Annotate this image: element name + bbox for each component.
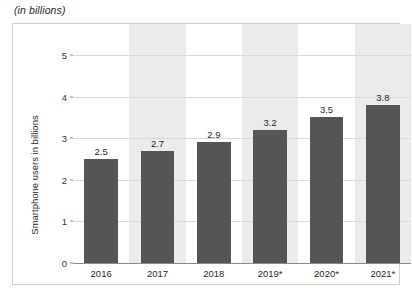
gridline: 1 — [73, 221, 411, 222]
x-axis-tick-label: 2018 — [203, 268, 224, 279]
y-axis-tick-label: 5 — [62, 50, 67, 61]
gridline: 5 — [73, 55, 411, 56]
bar[interactable]: 3.5 — [310, 117, 344, 263]
bar-value-label: 2.5 — [95, 146, 108, 157]
plot-area: 0123452.520162.720172.920183.22019*3.520… — [73, 55, 411, 263]
bar-value-label: 3.5 — [320, 104, 333, 115]
y-axis-tick-label: 1 — [62, 216, 67, 227]
x-axis-tick-label: 2016 — [91, 268, 112, 279]
gridline: 3 — [73, 138, 411, 139]
bar-value-label: 2.9 — [207, 129, 220, 140]
chart-frame: Smartphone users in billions 0123452.520… — [12, 23, 400, 285]
bar[interactable]: 2.9 — [197, 142, 231, 263]
bar[interactable]: 2.7 — [141, 151, 175, 263]
bar-chart: (in billions) Smartphone users in billio… — [0, 0, 412, 293]
bar[interactable]: 2.5 — [84, 159, 118, 263]
bar-value-label: 3.8 — [376, 92, 389, 103]
bar[interactable]: 3.8 — [366, 105, 400, 263]
y-axis-tick-mark — [70, 263, 73, 264]
gridline: 2 — [73, 180, 411, 181]
gridline: 4 — [73, 97, 411, 98]
bar[interactable]: 3.2 — [253, 130, 287, 263]
y-axis-tick-mark — [70, 96, 73, 97]
y-axis-tick-mark — [70, 138, 73, 139]
y-axis-tick-mark — [70, 55, 73, 56]
bar-value-label: 2.7 — [151, 138, 164, 149]
x-axis-tick-label: 2021* — [370, 268, 395, 279]
x-axis-tick-label: 2019* — [258, 268, 283, 279]
x-axis-tick-label: 2020* — [314, 268, 339, 279]
bar-value-label: 3.2 — [264, 117, 277, 128]
y-axis-tick-label: 2 — [62, 174, 67, 185]
y-axis-tick-label: 4 — [62, 91, 67, 102]
x-axis-tick-label: 2017 — [147, 268, 168, 279]
y-axis-title: Smartphone users in billions — [29, 85, 40, 265]
y-axis-tick-label: 3 — [62, 133, 67, 144]
chart-title: (in billions) — [14, 4, 65, 16]
x-axis-line: 0 — [73, 263, 411, 264]
y-axis-tick-mark — [70, 221, 73, 222]
y-axis-tick-label: 0 — [62, 258, 67, 269]
y-axis-tick-mark — [70, 179, 73, 180]
